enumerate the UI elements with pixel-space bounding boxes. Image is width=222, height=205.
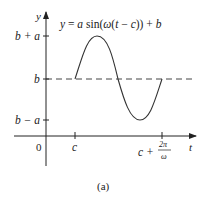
label-b-minus-a: b − a bbox=[15, 114, 40, 126]
figure-sine-graph: y t y = a sin(ω(t − c)) + b b + a b b − … bbox=[0, 0, 222, 205]
svg-text:ω: ω bbox=[161, 152, 167, 161]
svg-text:c +: c + bbox=[138, 146, 154, 158]
origin-label: 0 bbox=[36, 141, 42, 153]
y-axis-label: y bbox=[35, 10, 41, 22]
label-b: b bbox=[34, 73, 40, 85]
svg-text:2π: 2π bbox=[159, 140, 168, 149]
sine-curve bbox=[75, 36, 162, 120]
equation: y = a sin(ω(t − c)) + b bbox=[59, 18, 162, 31]
label-b-plus-a: b + a bbox=[15, 30, 40, 42]
graph-canvas: y t y = a sin(ω(t − c)) + b b + a b b − … bbox=[0, 0, 222, 205]
label-c: c bbox=[72, 141, 77, 153]
caption: (a) bbox=[97, 180, 110, 193]
x-axis-label: t bbox=[189, 141, 193, 153]
label-c-plus-period: c + 2π ω bbox=[138, 140, 171, 161]
